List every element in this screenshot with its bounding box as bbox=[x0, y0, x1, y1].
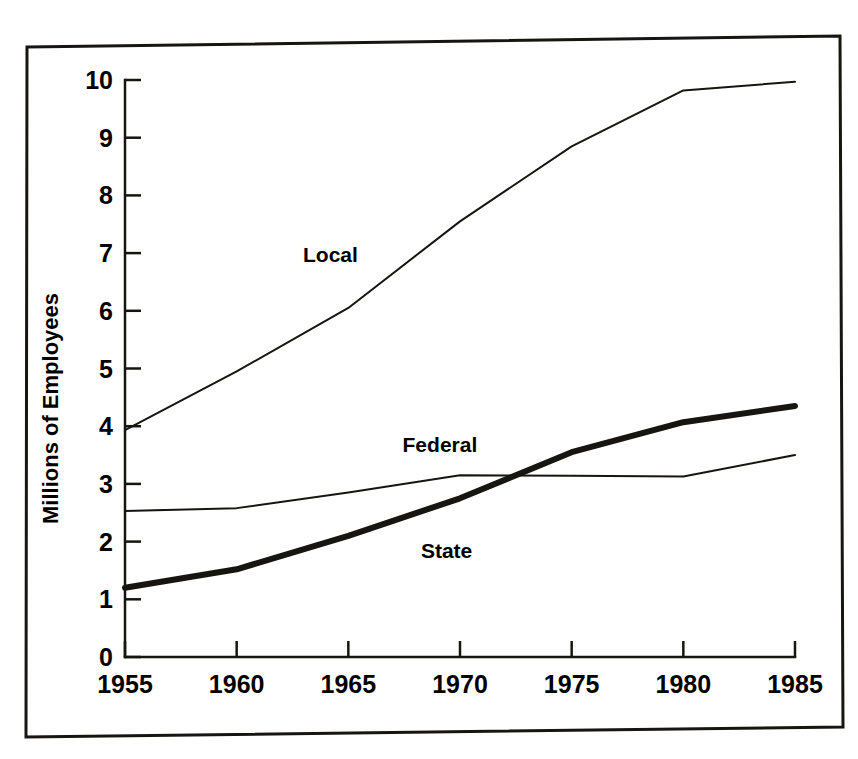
y-tick-label-9: 9 bbox=[99, 124, 113, 152]
line-chart: 0123456789101955196019651970197519801985… bbox=[0, 0, 858, 759]
x-tick-label-1960: 1960 bbox=[209, 670, 265, 698]
x-tick-label-1975: 1975 bbox=[544, 670, 600, 698]
x-tick-label-1965: 1965 bbox=[321, 670, 377, 698]
y-tick-label-7: 7 bbox=[99, 239, 113, 267]
series-line-local bbox=[125, 82, 795, 431]
y-tick-label-3: 3 bbox=[99, 470, 113, 498]
y-tick-label-0: 0 bbox=[99, 643, 113, 671]
x-tick-label-1985: 1985 bbox=[767, 670, 823, 698]
series-label-local: Local bbox=[303, 243, 358, 266]
series-label-state: State bbox=[421, 539, 472, 562]
figure-container: 0123456789101955196019651970197519801985… bbox=[0, 0, 858, 759]
y-tick-label-8: 8 bbox=[99, 181, 113, 209]
y-tick-label-5: 5 bbox=[99, 355, 113, 383]
x-tick-label-1980: 1980 bbox=[656, 670, 712, 698]
x-tick-label-1955: 1955 bbox=[97, 670, 153, 698]
x-tick-label-1970: 1970 bbox=[432, 670, 488, 698]
y-tick-label-10: 10 bbox=[85, 66, 113, 94]
y-tick-label-6: 6 bbox=[99, 297, 113, 325]
y-tick-label-4: 4 bbox=[99, 412, 113, 440]
series-line-federal bbox=[125, 455, 795, 511]
y-axis-title: Millions of Employees bbox=[38, 293, 63, 524]
y-tick-label-2: 2 bbox=[99, 528, 113, 556]
series-label-federal: Federal bbox=[403, 433, 478, 456]
y-tick-label-1: 1 bbox=[99, 585, 113, 613]
